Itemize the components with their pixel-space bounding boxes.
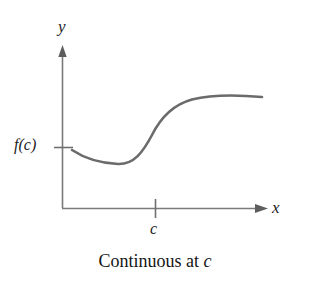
x-axis-label: x xyxy=(272,199,280,216)
y-tick-label-fc: f(c) xyxy=(14,137,36,153)
figure-caption: Continuous at c xyxy=(0,252,310,272)
caption-text: Continuous at xyxy=(98,251,203,271)
x-axis-arrowhead xyxy=(255,204,268,213)
caption-variable: c xyxy=(204,251,212,271)
function-curve xyxy=(72,96,262,164)
continuity-graph xyxy=(0,0,310,292)
x-tick-label-c: c xyxy=(150,221,157,237)
y-axis-arrowhead xyxy=(58,45,66,57)
y-axis-label: y xyxy=(58,18,66,35)
figure-container: y x f(c) c Continuous at c xyxy=(0,0,310,292)
